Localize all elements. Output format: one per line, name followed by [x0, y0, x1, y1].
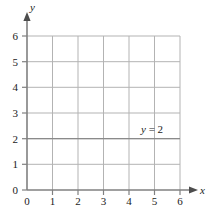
coordinate-plane-figure: y x 6 5 4 3 2 1 0 0 1 2 3 4 5 6 y = 2	[0, 0, 210, 207]
x-tick-label-1: 1	[46, 196, 60, 207]
y-tick-label-2: 2	[4, 134, 18, 145]
x-tick-label-2: 2	[71, 196, 85, 207]
y-tick-label-6: 6	[4, 31, 18, 42]
y-tick-label-5: 5	[4, 57, 18, 68]
x-tick-label-0: 0	[20, 196, 34, 207]
y-tick-label-3: 3	[4, 108, 18, 119]
y-axis	[22, 12, 31, 190]
plot-canvas	[0, 0, 210, 207]
x-tick-label-3: 3	[97, 196, 111, 207]
x-tick-label-6: 6	[173, 196, 187, 207]
line-equation-value: 2	[158, 123, 164, 135]
x-axis-label: x	[200, 185, 205, 196]
y-tick-label-4: 4	[4, 82, 18, 93]
y-tick-label-1: 1	[4, 159, 18, 170]
y-axis-label: y	[30, 2, 35, 13]
line-equation-label: y = 2	[141, 123, 163, 135]
x-tick-label-5: 5	[148, 196, 162, 207]
x-tick-label-4: 4	[122, 196, 136, 207]
y-tick-label-0: 0	[4, 185, 18, 196]
